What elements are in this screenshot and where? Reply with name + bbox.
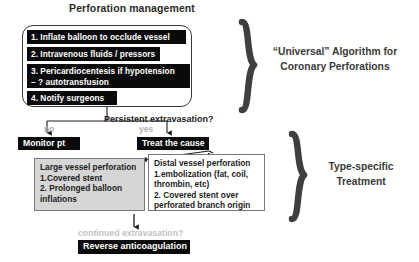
outcome-treat-the-cause: Treat the cause xyxy=(137,137,209,150)
footer-question: continued extravasation? xyxy=(78,228,183,238)
diagram-title: Perforation management xyxy=(52,2,212,14)
outcome-monitor-patient: Monitor pt xyxy=(18,137,80,150)
step-box-4: 4. Notify surgeons xyxy=(27,91,117,105)
branch-label-no: no xyxy=(44,124,54,134)
treatment-distal-vessel-perforation: Distal vessel perforation 1.embolization… xyxy=(148,154,265,211)
step-box-3: 3. Pericardiocentesis if hypotension – ?… xyxy=(27,64,190,88)
step-box-1: 1. Inflate balloon to occlude vessel xyxy=(27,30,186,44)
flowchart-canvas: Perforation management 1. Inflate balloo… xyxy=(0,0,419,262)
branch-label-yes: yes xyxy=(139,124,153,134)
decision-question: Persistent extravasation? xyxy=(104,114,214,124)
annotation-universal-algorithm: “Universal” Algorithm for Coronary Perfo… xyxy=(253,44,417,74)
step-box-2: 2. Intravenous fluids / pressors xyxy=(27,47,160,61)
footer-action-reverse-anticoagulation: Reverse anticoagulation xyxy=(78,240,190,254)
treatment-large-vessel-perforation: Large vessel perforation 1.Covered stent… xyxy=(34,158,145,211)
connector-treat-to-distal-stub xyxy=(209,151,213,153)
annotation-type-specific-treatment: Type-specific Treatment xyxy=(305,159,417,189)
brace-type-specific xyxy=(292,134,304,219)
